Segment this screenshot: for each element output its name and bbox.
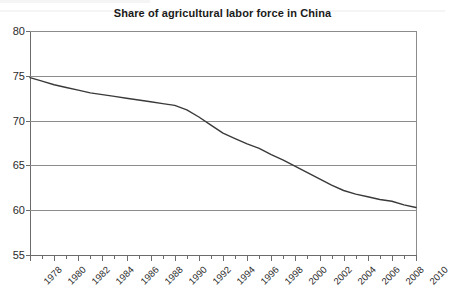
x-tick-mark-2003 [332, 256, 333, 259]
x-tick-mark-2009 [404, 256, 405, 259]
x-tick-label-1986: 1986 [138, 264, 161, 287]
x-tick-mark-1994 [223, 256, 224, 261]
x-tick-mark-1996 [247, 256, 248, 261]
x-tick-mark-2008 [392, 256, 393, 261]
x-tick-mark-1992 [199, 256, 200, 261]
x-tick-mark-1979 [42, 256, 43, 259]
x-tick-label-1988: 1988 [162, 264, 185, 287]
x-tick-label-1978: 1978 [41, 264, 64, 287]
x-tick-mark-1980 [54, 256, 55, 261]
x-tick-mark-1984 [102, 256, 103, 261]
y-tick-label-65: 65 [13, 159, 25, 171]
scan-artifact [0, 0, 150, 3]
x-tick-mark-2005 [356, 256, 357, 259]
x-tick-mark-2007 [380, 256, 381, 259]
y-tick-label-70: 70 [13, 115, 25, 127]
x-tick-mark-1978 [30, 256, 31, 261]
x-tick-mark-1983 [90, 256, 91, 259]
y-tick-label-80: 80 [13, 25, 25, 37]
x-tick-mark-1991 [187, 256, 188, 259]
x-tick-mark-1990 [175, 256, 176, 261]
x-tick-label-1980: 1980 [65, 264, 88, 287]
plot-area: 807570656055 197819801982198419861988199… [30, 31, 416, 255]
x-tick-mark-1981 [66, 256, 67, 259]
y-tick-label-55: 55 [13, 249, 25, 261]
x-tick-mark-2004 [344, 256, 345, 261]
x-tick-mark-1988 [151, 256, 152, 261]
x-tick-mark-2006 [368, 256, 369, 261]
x-tick-label-1982: 1982 [89, 264, 112, 287]
x-tick-label-2004: 2004 [355, 264, 378, 287]
y-tick-label-60: 60 [13, 204, 25, 216]
x-tick-mark-2000 [295, 256, 296, 261]
x-tick-label-1992: 1992 [210, 264, 233, 287]
x-tick-label-1998: 1998 [282, 264, 305, 287]
chart-title: Share of agricultural labor force in Chi… [0, 7, 445, 19]
x-tick-mark-1993 [211, 256, 212, 259]
x-tick-mark-1986 [127, 256, 128, 261]
x-tick-label-1984: 1984 [114, 264, 137, 287]
x-tick-label-2010: 2010 [427, 264, 450, 287]
y-tick-label-75: 75 [13, 70, 25, 82]
x-tick-mark-2002 [320, 256, 321, 261]
x-tick-label-2000: 2000 [307, 264, 330, 287]
x-tick-mark-2001 [307, 256, 308, 259]
x-tick-label-1994: 1994 [234, 264, 257, 287]
x-tick-mark-1997 [259, 256, 260, 259]
x-tick-mark-1982 [78, 256, 79, 261]
x-tick-mark-1995 [235, 256, 236, 259]
x-tick-mark-1985 [114, 256, 115, 259]
x-tick-label-2006: 2006 [379, 264, 402, 287]
x-tick-label-1996: 1996 [258, 264, 281, 287]
data-series-line [30, 31, 416, 255]
x-tick-label-2008: 2008 [403, 264, 426, 287]
x-tick-mark-2010 [416, 256, 417, 261]
plot-right-border [416, 31, 417, 255]
x-tick-mark-1987 [139, 256, 140, 259]
x-tick-mark-1999 [283, 256, 284, 259]
x-tick-mark-1989 [163, 256, 164, 259]
x-tick-mark-1998 [271, 256, 272, 261]
x-tick-label-2002: 2002 [331, 264, 354, 287]
x-tick-label-1990: 1990 [186, 264, 209, 287]
